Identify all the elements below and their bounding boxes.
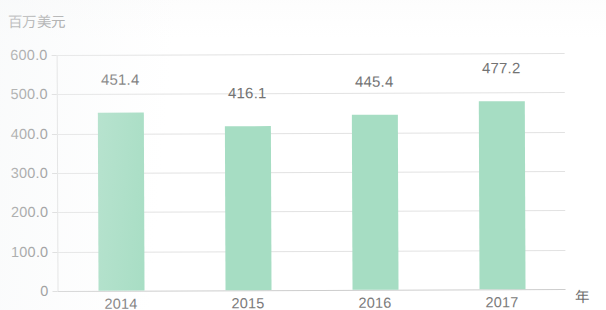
bar-value-label: 445.4 bbox=[355, 72, 394, 89]
y-axis-tick-label: 400.0 bbox=[11, 126, 48, 142]
bar-2015 bbox=[224, 126, 271, 290]
y-axis-tick-label: 100.0 bbox=[11, 244, 48, 260]
y-axis-tick-label: 0 bbox=[40, 283, 48, 299]
y-axis-tick-label: 300.0 bbox=[11, 165, 48, 181]
y-axis-tick-mark bbox=[53, 291, 58, 292]
y-axis-tick-mark bbox=[52, 55, 57, 56]
bar-value-label: 416.1 bbox=[228, 84, 267, 101]
y-axis-tick-mark bbox=[52, 252, 57, 253]
gridline bbox=[57, 53, 565, 56]
bar-2017 bbox=[478, 101, 525, 289]
y-axis-tick-mark bbox=[52, 173, 57, 174]
x-axis-unit-label: 年 bbox=[575, 285, 589, 306]
bar-value-label: 451.4 bbox=[101, 71, 140, 88]
y-axis-tick-mark bbox=[52, 212, 57, 213]
bar-chart: 百万美元 0100.0200.0300.0400.0500.0600.0451.… bbox=[0, 0, 606, 310]
y-axis-tick-label: 200.0 bbox=[11, 204, 48, 220]
y-axis-tick-label: 500.0 bbox=[10, 86, 47, 102]
y-axis-unit-label: 百万美元 bbox=[7, 10, 65, 31]
chart-scan-layer: 百万美元 0100.0200.0300.0400.0500.0600.0451.… bbox=[0, 0, 606, 310]
gridline bbox=[57, 92, 565, 95]
x-axis-tick-label: 2014 bbox=[105, 296, 138, 310]
y-axis-tick-mark bbox=[52, 134, 57, 135]
bar-2016 bbox=[351, 114, 398, 289]
y-axis-tick-mark bbox=[52, 94, 57, 95]
plot-area: 0100.0200.0300.0400.0500.0600.0451.42014… bbox=[57, 53, 566, 291]
x-axis-tick-label: 2015 bbox=[232, 295, 265, 310]
x-axis-tick-label: 2016 bbox=[359, 295, 392, 310]
bar-value-label: 477.2 bbox=[482, 59, 521, 76]
y-axis-tick-label: 600.0 bbox=[10, 47, 47, 63]
x-axis-tick-label: 2017 bbox=[486, 294, 519, 310]
bar-2014 bbox=[97, 113, 144, 291]
